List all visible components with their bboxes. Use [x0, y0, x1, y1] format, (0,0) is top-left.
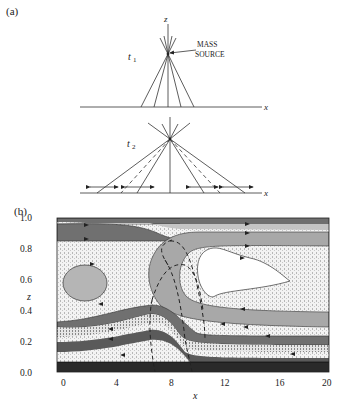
x-axis-label: x [192, 390, 198, 401]
time1-subscript: 1 [133, 56, 137, 64]
x-axis-label-t2: x [263, 188, 268, 198]
z-axis-label: z [163, 14, 168, 24]
time2-label: t [127, 138, 130, 149]
ytick-0.2: 0.2 [20, 337, 32, 347]
ytick-1.0: 1.0 [20, 213, 32, 223]
x-axis: 0 4 8 12 16 20 [61, 378, 332, 388]
panel-b: (b) [14, 205, 332, 401]
xtick-0: 0 [61, 378, 66, 388]
y-axis-label: z [26, 291, 31, 302]
time1-label: t [128, 51, 131, 62]
mass-source-label-line1: MASS [197, 40, 217, 49]
ytick-0.0: 0.0 [20, 368, 32, 378]
mass-source-pointer [170, 50, 196, 53]
streamline-plot [57, 218, 329, 372]
xtick-4: 4 [114, 378, 119, 388]
time2-subscript: 2 [132, 143, 136, 151]
x-axis-label-t1: x [263, 102, 268, 112]
time1-diagram [80, 24, 262, 107]
mass-source-point-t1 [167, 53, 170, 56]
xtick-12: 12 [220, 378, 230, 388]
panel-a: (a) z x t 1 MASS SOURCE [6, 5, 268, 198]
mass-source-point-t2 [169, 138, 172, 141]
panel-a-label: (a) [6, 5, 19, 18]
ytick-0.4: 0.4 [20, 306, 32, 316]
time2-diagram [80, 117, 262, 193]
figure: (a) z x t 1 MASS SOURCE [0, 0, 347, 406]
xtick-8: 8 [169, 378, 174, 388]
mass-source-label-line2: SOURCE [195, 50, 225, 59]
ytick-0.8: 0.8 [20, 244, 32, 254]
xtick-16: 16 [275, 378, 285, 388]
ytick-0.6: 0.6 [20, 275, 32, 285]
xtick-20: 20 [322, 378, 332, 388]
